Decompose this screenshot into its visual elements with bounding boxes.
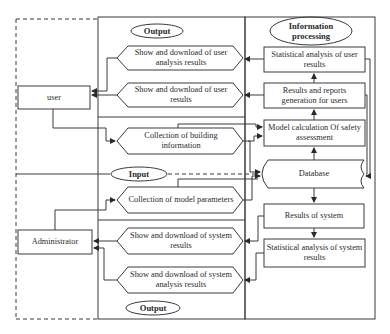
actor-administrator: Administrator (18, 230, 92, 254)
section-output-bottom: Output (126, 302, 180, 314)
section-output-top: Output (131, 25, 183, 37)
proc-stat-user: Statistical analysis of user results (264, 47, 365, 72)
section-input: Input (112, 168, 166, 180)
actor-user: user (18, 86, 90, 109)
hex-label-building: Collection of building information (124, 128, 238, 154)
proc-results-system: Results of system (264, 204, 364, 228)
section-info-processing: Information processing (276, 18, 346, 44)
proc-model-calc: Model calculation Of safety assessment (268, 120, 361, 146)
proc-stat-system: Statistical analysis of system results (266, 239, 363, 267)
hex-label-user-results: Show and download of user results (124, 83, 238, 107)
hex-label-system-analysis: Show and download of system analysis res… (120, 267, 242, 293)
proc-database: Database (266, 160, 362, 188)
hex-label-model: Collection of model parameters (124, 187, 238, 213)
system-architecture-diagram: user Administrator Output Input Output I… (0, 0, 390, 334)
proc-results-reports: Results and reports generation for users (266, 83, 363, 108)
hex-label-user-analysis: Show and download of user analysis resul… (124, 46, 238, 70)
hex-label-system-results: Show and download of system results (124, 228, 238, 254)
